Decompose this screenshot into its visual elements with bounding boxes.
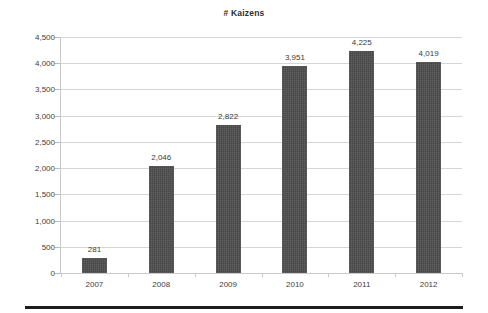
y-axis-tick-label: 500 — [7, 242, 55, 251]
plot-area — [61, 37, 462, 273]
x-axis-tick — [128, 273, 129, 277]
chart-title: # Kaizens — [0, 8, 488, 18]
x-axis-tick — [195, 273, 196, 277]
bar-value-label: 4,225 — [352, 38, 372, 47]
bar-value-label: 2,046 — [151, 153, 171, 162]
bottom-horizontal-rule — [25, 306, 463, 309]
bar — [349, 51, 374, 273]
gridline — [61, 142, 462, 143]
x-axis-tick-label: 2009 — [219, 280, 237, 289]
x-axis-tick — [462, 273, 463, 277]
gridline — [61, 37, 462, 38]
x-axis-tick — [395, 273, 396, 277]
x-axis-tick — [328, 273, 329, 277]
gridline — [61, 194, 462, 195]
y-axis-tick-label: 4,500 — [7, 33, 55, 42]
x-axis-tick-label: 2010 — [286, 280, 304, 289]
x-axis-tick-label: 2012 — [420, 280, 438, 289]
x-axis-tick-label: 2008 — [152, 280, 170, 289]
x-axis-tick-label: 2011 — [353, 280, 370, 289]
y-axis-tick-label: 1,500 — [7, 190, 55, 199]
y-axis-tick — [55, 273, 60, 274]
x-axis-tick-label: 2007 — [86, 280, 104, 289]
y-axis-tick-label: 3,500 — [7, 85, 55, 94]
bar — [82, 258, 107, 273]
bar-value-label: 4,019 — [419, 49, 439, 58]
gridline — [61, 116, 462, 117]
bar — [416, 62, 441, 273]
bar — [149, 166, 174, 273]
bar-value-label: 2,822 — [218, 112, 238, 121]
gridline — [61, 221, 462, 222]
gridline — [61, 63, 462, 64]
y-axis-tick-label: 4,000 — [7, 59, 55, 68]
y-axis-tick — [55, 247, 60, 248]
bar-chart-figure: # Kaizens 05001,0001,5002,0002,5003,0003… — [0, 0, 488, 313]
y-axis-tick-label: 3,000 — [7, 111, 55, 120]
y-axis-tick — [55, 194, 60, 195]
x-axis-tick — [262, 273, 263, 277]
y-axis-tick — [55, 221, 60, 222]
y-axis-tick-label: 1,000 — [7, 216, 55, 225]
y-axis-tick-label: 2,500 — [7, 137, 55, 146]
gridline — [61, 89, 462, 90]
y-axis-tick — [55, 142, 60, 143]
gridline — [61, 247, 462, 248]
bar-value-label: 281 — [88, 245, 101, 254]
bar — [216, 125, 241, 273]
y-axis-tick-label: 0 — [7, 269, 55, 278]
x-axis-tick — [61, 273, 62, 277]
y-axis-tick — [55, 168, 60, 169]
gridline — [61, 168, 462, 169]
y-axis-tick — [55, 116, 60, 117]
y-axis-tick — [55, 63, 60, 64]
y-axis-tick — [55, 89, 60, 90]
y-axis-tick-labels: 05001,0001,5002,0002,5003,0003,5004,0004… — [5, 0, 55, 313]
y-axis-tick-label: 2,000 — [7, 164, 55, 173]
bar — [282, 66, 307, 273]
bar-value-label: 3,951 — [285, 53, 305, 62]
y-axis-tick — [55, 37, 60, 38]
